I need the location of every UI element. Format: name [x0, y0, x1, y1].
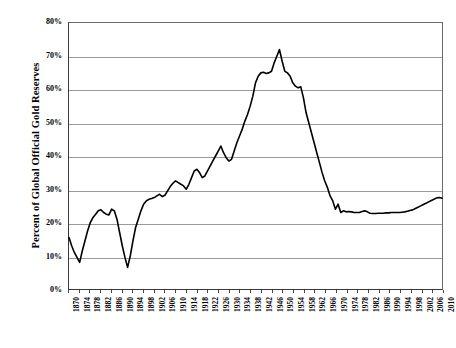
y-axis-tick-label: 20% — [28, 219, 62, 227]
x-axis-tick-mark — [261, 290, 262, 293]
x-axis-tick-label: 1950 — [287, 297, 295, 337]
x-axis-tick-mark — [336, 290, 337, 293]
x-axis-tick-label: 1874 — [84, 297, 92, 337]
x-axis-tick-label: 1990 — [394, 297, 402, 337]
x-axis-tick-label: 1974 — [352, 297, 360, 337]
y-axis-tick-label: 50% — [28, 119, 62, 127]
x-axis-tick-label: 1902 — [159, 297, 167, 337]
x-axis-tick-label: 1966 — [330, 297, 338, 337]
x-axis-tick-mark — [432, 290, 433, 293]
y-axis-tick-label: 60% — [28, 85, 62, 93]
x-axis-tick-label: 1962 — [319, 297, 327, 337]
x-axis-tick-mark — [239, 290, 240, 293]
x-axis-tick-label: 2006 — [437, 297, 445, 337]
y-axis-tick-label: 70% — [28, 52, 62, 60]
y-axis-tick-label: 0% — [28, 286, 62, 294]
x-axis-tick-mark — [79, 290, 80, 293]
x-axis-tick-label: 2010 — [448, 297, 456, 337]
x-axis-tick-label: 1930 — [234, 297, 242, 337]
x-axis-tick-label: 1898 — [148, 297, 156, 337]
x-axis-tick-label: 1982 — [373, 297, 381, 337]
x-axis-tick-label: 1918 — [202, 297, 210, 337]
x-axis-tick-mark — [197, 290, 198, 293]
plot-area — [68, 22, 443, 290]
x-axis-tick-label: 1914 — [191, 297, 199, 337]
x-axis-tick-label: 1890 — [127, 297, 135, 337]
x-axis-tick-label: 1938 — [255, 297, 263, 337]
x-axis-tick-mark — [389, 290, 390, 293]
x-axis-tick-mark — [272, 290, 273, 293]
x-axis-tick-mark — [154, 290, 155, 293]
y-axis-tick-label: 30% — [28, 186, 62, 194]
x-axis-tick-label: 1946 — [277, 297, 285, 337]
x-axis-tick-mark — [100, 290, 101, 293]
x-axis-tick-mark — [282, 290, 283, 293]
x-axis-tick-label: 1894 — [137, 297, 145, 337]
x-axis-tick-label: 1934 — [244, 297, 252, 337]
x-axis-tick-mark — [443, 290, 444, 293]
x-axis-tick-label: 1978 — [362, 297, 370, 337]
y-axis-tick-label: 80% — [28, 18, 62, 26]
y-axis-tick-labels: 0%10%20%30%40%50%60%70%80% — [28, 16, 62, 296]
x-axis-tick-label: 1942 — [266, 297, 274, 337]
x-axis-tick-mark — [379, 290, 380, 293]
x-axis-tick-label: 1998 — [416, 297, 424, 337]
x-axis-tick-mark — [347, 290, 348, 293]
x-axis-tick-mark — [89, 290, 90, 293]
series-line — [69, 23, 442, 289]
x-axis-tick-label: 1970 — [341, 297, 349, 337]
x-axis-tick-label: 1926 — [223, 297, 231, 337]
x-axis-tick-label: 1882 — [105, 297, 113, 337]
x-axis-tick-mark — [68, 290, 69, 293]
x-axis-tick-label: 1958 — [309, 297, 317, 337]
x-axis-tick-mark — [186, 290, 187, 293]
x-axis-tick-mark — [207, 290, 208, 293]
x-axis-tick-mark — [122, 290, 123, 293]
x-axis-tick-label: 1986 — [384, 297, 392, 337]
x-axis-tick-mark — [357, 290, 358, 293]
x-axis-tick-mark — [422, 290, 423, 293]
x-axis-tick-mark — [250, 290, 251, 293]
x-axis-tick-mark — [400, 290, 401, 293]
y-axis-tick-label: 40% — [28, 152, 62, 160]
x-axis-tick-mark — [293, 290, 294, 293]
x-axis-tick-label: 1910 — [180, 297, 188, 337]
x-axis-tick-mark — [304, 290, 305, 293]
x-axis-tick-label: 2002 — [427, 297, 435, 337]
x-axis-tick-label: 1886 — [116, 297, 124, 337]
x-axis-tick-mark — [229, 290, 230, 293]
x-axis-tick-mark — [143, 290, 144, 293]
x-axis-tick-label: 1878 — [94, 297, 102, 337]
x-axis-tick-mark — [175, 290, 176, 293]
x-axis-tick-mark — [368, 290, 369, 293]
x-axis-tick-mark — [164, 290, 165, 293]
x-axis-tick-mark — [314, 290, 315, 293]
x-axis-tick-mark — [411, 290, 412, 293]
x-axis-tick-label: 1994 — [405, 297, 413, 337]
x-axis-tick-labels: 1870187418781882188618901894189819021906… — [68, 293, 443, 348]
x-axis-tick-label: 1870 — [73, 297, 81, 337]
x-axis-tick-mark — [218, 290, 219, 293]
x-axis-tick-label: 1954 — [298, 297, 306, 337]
x-axis-tick-mark — [111, 290, 112, 293]
x-axis-tick-label: 1906 — [169, 297, 177, 337]
x-axis-tick-label: 1922 — [212, 297, 220, 337]
x-axis-tick-mark — [132, 290, 133, 293]
y-axis-tick-label: 10% — [28, 253, 62, 261]
x-axis-tick-mark — [325, 290, 326, 293]
